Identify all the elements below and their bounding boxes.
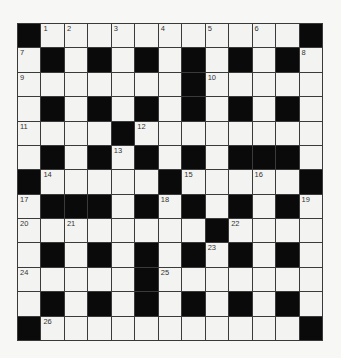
grid-cell[interactable] <box>65 48 87 71</box>
grid-cell[interactable] <box>206 97 228 120</box>
grid-cell[interactable] <box>65 146 87 169</box>
grid-cell[interactable] <box>276 317 298 340</box>
grid-cell[interactable] <box>182 219 204 242</box>
numbered-grid-cell[interactable]: 10 <box>206 73 228 96</box>
grid-cell[interactable] <box>182 122 204 145</box>
grid-cell[interactable] <box>206 170 228 193</box>
numbered-grid-cell[interactable]: 24 <box>18 268 40 291</box>
grid-cell[interactable] <box>206 195 228 218</box>
grid-cell[interactable] <box>18 243 40 266</box>
grid-cell[interactable] <box>253 195 275 218</box>
numbered-grid-cell[interactable]: 17 <box>18 195 40 218</box>
grid-cell[interactable] <box>159 48 181 71</box>
grid-cell[interactable] <box>18 292 40 315</box>
numbered-grid-cell[interactable]: 5 <box>206 24 228 47</box>
grid-cell[interactable] <box>88 170 110 193</box>
grid-cell[interactable] <box>112 73 134 96</box>
grid-cell[interactable] <box>159 292 181 315</box>
grid-cell[interactable] <box>206 268 228 291</box>
grid-cell[interactable] <box>253 268 275 291</box>
numbered-grid-cell[interactable]: 23 <box>206 243 228 266</box>
grid-cell[interactable] <box>159 73 181 96</box>
grid-cell[interactable] <box>65 317 87 340</box>
grid-cell[interactable] <box>88 317 110 340</box>
grid-cell[interactable] <box>88 24 110 47</box>
grid-cell[interactable] <box>229 24 251 47</box>
grid-cell[interactable] <box>300 97 322 120</box>
grid-cell[interactable] <box>18 146 40 169</box>
grid-cell[interactable] <box>300 73 322 96</box>
grid-cell[interactable] <box>253 243 275 266</box>
grid-cell[interactable] <box>135 317 157 340</box>
grid-cell[interactable] <box>88 268 110 291</box>
grid-cell[interactable] <box>112 268 134 291</box>
grid-cell[interactable] <box>159 97 181 120</box>
grid-cell[interactable] <box>182 317 204 340</box>
grid-cell[interactable] <box>41 122 63 145</box>
grid-cell[interactable] <box>300 292 322 315</box>
grid-cell[interactable] <box>159 219 181 242</box>
numbered-grid-cell[interactable]: 18 <box>159 195 181 218</box>
grid-cell[interactable] <box>112 97 134 120</box>
numbered-grid-cell[interactable]: 13 <box>112 146 134 169</box>
grid-cell[interactable] <box>206 122 228 145</box>
grid-cell[interactable] <box>229 317 251 340</box>
grid-cell[interactable] <box>276 24 298 47</box>
grid-cell[interactable] <box>65 268 87 291</box>
numbered-grid-cell[interactable]: 8 <box>300 48 322 71</box>
numbered-grid-cell[interactable]: 20 <box>18 219 40 242</box>
grid-cell[interactable] <box>65 97 87 120</box>
numbered-grid-cell[interactable]: 1 <box>41 24 63 47</box>
numbered-grid-cell[interactable]: 22 <box>229 219 251 242</box>
grid-cell[interactable] <box>253 219 275 242</box>
grid-cell[interactable] <box>300 122 322 145</box>
grid-cell[interactable] <box>206 292 228 315</box>
grid-cell[interactable] <box>88 122 110 145</box>
grid-cell[interactable] <box>65 73 87 96</box>
grid-cell[interactable] <box>135 219 157 242</box>
grid-cell[interactable] <box>300 268 322 291</box>
numbered-grid-cell[interactable]: 12 <box>135 122 157 145</box>
numbered-grid-cell[interactable]: 25 <box>159 268 181 291</box>
grid-cell[interactable] <box>276 170 298 193</box>
grid-cell[interactable] <box>276 122 298 145</box>
numbered-grid-cell[interactable]: 3 <box>112 24 134 47</box>
grid-cell[interactable] <box>18 97 40 120</box>
grid-cell[interactable] <box>135 170 157 193</box>
grid-cell[interactable] <box>182 24 204 47</box>
grid-cell[interactable] <box>229 268 251 291</box>
grid-cell[interactable] <box>229 122 251 145</box>
numbered-grid-cell[interactable]: 21 <box>65 219 87 242</box>
grid-cell[interactable] <box>112 292 134 315</box>
grid-cell[interactable] <box>300 243 322 266</box>
grid-cell[interactable] <box>276 268 298 291</box>
numbered-grid-cell[interactable]: 6 <box>253 24 275 47</box>
grid-cell[interactable] <box>112 170 134 193</box>
grid-cell[interactable] <box>206 48 228 71</box>
grid-cell[interactable] <box>112 195 134 218</box>
grid-cell[interactable] <box>41 268 63 291</box>
grid-cell[interactable] <box>135 73 157 96</box>
grid-cell[interactable] <box>229 170 251 193</box>
numbered-grid-cell[interactable]: 7 <box>18 48 40 71</box>
grid-cell[interactable] <box>65 170 87 193</box>
grid-cell[interactable] <box>159 317 181 340</box>
grid-cell[interactable] <box>276 219 298 242</box>
grid-cell[interactable] <box>206 317 228 340</box>
grid-cell[interactable] <box>253 317 275 340</box>
grid-cell[interactable] <box>253 73 275 96</box>
grid-cell[interactable] <box>182 268 204 291</box>
grid-cell[interactable] <box>88 219 110 242</box>
grid-cell[interactable] <box>65 292 87 315</box>
grid-cell[interactable] <box>300 219 322 242</box>
grid-cell[interactable] <box>253 48 275 71</box>
grid-cell[interactable] <box>300 146 322 169</box>
grid-cell[interactable] <box>206 146 228 169</box>
grid-cell[interactable] <box>112 219 134 242</box>
numbered-grid-cell[interactable]: 19 <box>300 195 322 218</box>
numbered-grid-cell[interactable]: 26 <box>41 317 63 340</box>
grid-cell[interactable] <box>159 243 181 266</box>
numbered-grid-cell[interactable]: 4 <box>159 24 181 47</box>
grid-cell[interactable] <box>65 122 87 145</box>
grid-cell[interactable] <box>88 73 110 96</box>
